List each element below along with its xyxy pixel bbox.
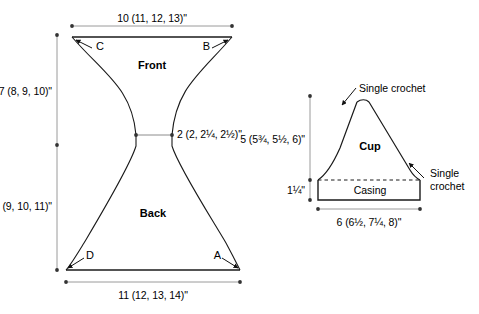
section-label-cup: Cup <box>359 140 380 153</box>
dimension-cup-base-width <box>316 207 422 211</box>
dimension-label-top-width: 10 (11, 12, 13)" <box>117 12 187 24</box>
annotation-single-crochet-right-line1: Single <box>430 167 464 180</box>
dimension-label-bottom-width: 11 (12, 13, 14)" <box>118 289 188 301</box>
dimension-left-heights <box>55 33 59 272</box>
schematic-diagram: 10 (11, 12, 13)" 7 (8, 9, 10)" 8 (9, 10,… <box>0 0 479 314</box>
annotation-single-crochet-top: Single crochet <box>359 82 426 94</box>
corner-marker-d: D <box>86 249 94 262</box>
dimension-label-cup-height: 5 (5¾, 5½, 6)" <box>240 133 305 145</box>
front-back-panel-outline <box>66 37 240 270</box>
section-label-back: Back <box>140 207 166 220</box>
dimension-top-width <box>70 24 234 28</box>
section-label-front: Front <box>138 59 166 72</box>
dimension-label-back-height: 8 (9, 10, 11)" <box>0 200 52 212</box>
dimension-bottom-width <box>64 280 242 284</box>
corner-marker-b: B <box>203 40 210 53</box>
corner-marker-c: C <box>96 40 104 53</box>
section-label-casing: Casing <box>354 184 387 196</box>
corner-marker-a: A <box>214 249 221 262</box>
schematic-drawing-canvas <box>0 0 479 314</box>
dimension-label-cup-base-width: 6 (6½, 7¼, 8)" <box>337 216 402 228</box>
single-crochet-leaders <box>342 88 424 178</box>
dimension-label-front-height: 7 (8, 9, 10)" <box>0 85 52 97</box>
annotation-single-crochet-right-line2: crochet <box>430 180 464 193</box>
dimension-cup-heights <box>308 94 312 202</box>
dimension-label-casing-height: 1¼" <box>287 184 305 196</box>
annotation-single-crochet-right: Single crochet <box>430 167 464 193</box>
dimension-label-waist-width: 2 (2, 2¼, 2½)" <box>177 128 242 140</box>
corner-marker-leaders <box>68 40 238 268</box>
